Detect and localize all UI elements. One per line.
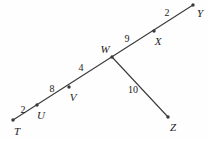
point-marker-t — [11, 118, 14, 121]
segment-measure-x-y: 2 — [165, 8, 170, 18]
point-label-v: V — [70, 92, 77, 103]
segment-measure-u-v: 8 — [50, 84, 55, 94]
geometry-figure: TUVWXYZ2849210 — [0, 0, 209, 141]
point-marker-w — [110, 55, 113, 58]
segment-measure-t-u: 2 — [21, 105, 26, 115]
segment-measure-w-z: 10 — [128, 85, 138, 95]
point-marker-y — [191, 3, 194, 6]
lines-group — [13, 5, 193, 120]
point-marker-x — [152, 29, 155, 32]
segment-measure-v-w: 4 — [79, 63, 84, 73]
segment-measure-w-x: 9 — [125, 34, 130, 44]
point-marker-u — [35, 103, 38, 106]
point-label-z: Z — [170, 122, 176, 133]
figure-canvas — [0, 0, 209, 141]
point-label-t: T — [14, 126, 20, 137]
main-line-T-to-Y — [13, 5, 193, 120]
branch-line-W-to-Z — [112, 57, 168, 117]
point-label-w: W — [100, 44, 109, 55]
point-label-y: Y — [197, 8, 203, 19]
point-marker-z — [166, 115, 169, 118]
point-label-u: U — [37, 110, 45, 121]
point-marker-v — [67, 85, 70, 88]
point-label-x: X — [155, 36, 162, 47]
